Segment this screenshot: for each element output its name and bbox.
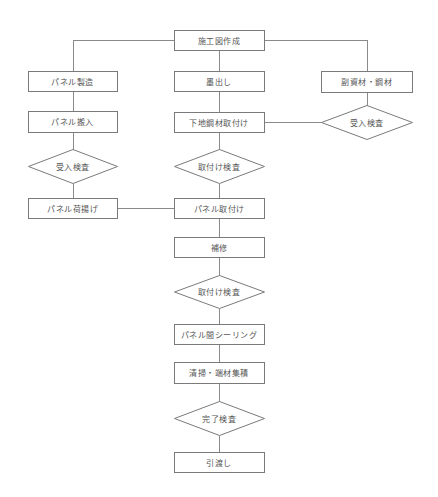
flowchart-shapes <box>29 31 413 473</box>
connector-line <box>265 41 368 72</box>
decision-diamond <box>322 106 413 140</box>
flowchart-canvas <box>0 0 438 497</box>
connector-line <box>74 41 175 72</box>
decision-diamond <box>29 150 118 184</box>
decision-diamond <box>175 150 265 184</box>
process-box <box>175 72 265 92</box>
process-box <box>322 72 413 93</box>
process-box <box>175 238 265 258</box>
process-box <box>29 112 118 133</box>
process-box <box>175 199 265 219</box>
process-box <box>175 31 265 51</box>
process-box <box>175 113 265 133</box>
process-box <box>29 72 118 92</box>
process-box <box>175 453 265 473</box>
decision-diamond <box>175 276 265 309</box>
process-box <box>29 199 118 219</box>
process-box <box>175 325 265 345</box>
process-box <box>175 363 265 384</box>
decision-diamond <box>175 402 265 436</box>
